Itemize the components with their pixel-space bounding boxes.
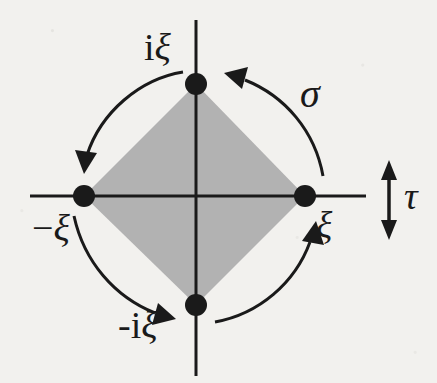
tau-arrowhead-up (381, 160, 397, 180)
label-minus-i-xi: -iξ (118, 306, 158, 344)
branch-point-right (294, 185, 316, 207)
label-tau: τ (404, 177, 418, 215)
label-i-xi-symbol: ξ (155, 26, 171, 68)
branch-point-left (73, 185, 95, 207)
label-minus-i-xi-prefix: -i (118, 304, 141, 346)
label-xi: ξ (316, 206, 332, 244)
branch-point-bottom (185, 294, 207, 316)
label-minus-xi-prefix: − (32, 207, 53, 249)
label-minus-i-xi-symbol: ξ (141, 304, 157, 346)
label-minus-xi-symbol: ξ (53, 207, 69, 249)
label-i-xi: iξ (144, 28, 171, 66)
label-minus-xi: −ξ (32, 209, 70, 247)
arrowhead-right-to-top (224, 67, 248, 89)
label-sigma: σ (300, 74, 320, 114)
tau-arrowhead-down (381, 220, 397, 240)
label-i-xi-prefix: i (144, 26, 155, 68)
label-xi-symbol: ξ (316, 204, 332, 246)
arrowhead-top-to-left (75, 150, 97, 174)
branch-point-top (185, 73, 207, 95)
complex-plane-figure: iξ -iξ −ξ ξ σ τ (0, 0, 437, 383)
figure-canvas (0, 0, 437, 383)
